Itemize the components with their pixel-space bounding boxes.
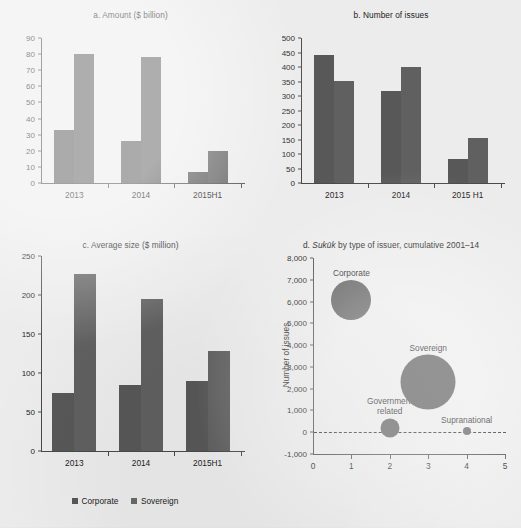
y-tickmark bbox=[310, 454, 314, 455]
bar-corporate-2015h1 bbox=[448, 159, 468, 183]
y-tickmark bbox=[298, 168, 302, 169]
y-ticklabel: 0 bbox=[303, 428, 307, 437]
y-ticklabel: 30 bbox=[26, 130, 35, 139]
panel-b-title: b. Number of issues bbox=[261, 10, 521, 20]
y-ticklabel: 0 bbox=[31, 179, 35, 188]
figure-legend: CorporateSovereign bbox=[72, 496, 178, 506]
bar-sovereign-2014 bbox=[141, 57, 161, 183]
y-tickmark bbox=[310, 410, 314, 411]
bar-sovereign-2015h1 bbox=[208, 151, 228, 183]
y-axis-line bbox=[41, 38, 42, 184]
y-tickmark bbox=[298, 96, 302, 97]
y-tickmark bbox=[38, 451, 42, 452]
x-tickmark bbox=[368, 184, 369, 188]
y-ticklabel: 450 bbox=[282, 48, 295, 57]
x-tickmark bbox=[108, 452, 109, 456]
y-tickmark bbox=[38, 38, 42, 39]
panel-b-number-of-issues: b. Number of issues 05010015020025030035… bbox=[261, 0, 521, 228]
y-tickmark bbox=[38, 54, 42, 55]
bar-corporate-2013 bbox=[52, 393, 74, 452]
legend-item-corporate[interactable]: Corporate bbox=[72, 496, 118, 506]
x-tickmark bbox=[351, 455, 352, 459]
bubble-sovereign bbox=[401, 355, 456, 410]
x-ticklabel: 2014 bbox=[132, 458, 150, 468]
zero-reference-line bbox=[314, 432, 506, 433]
x-ticklabel: 1 bbox=[349, 461, 354, 471]
x-tickmark bbox=[501, 184, 502, 188]
y-tickmark bbox=[310, 388, 314, 389]
y-ticklabel: -1,000 bbox=[284, 450, 307, 459]
y-tickmark bbox=[298, 154, 302, 155]
bubble-government-related bbox=[380, 418, 399, 437]
panel-d-title-italic-term: Sukūk bbox=[312, 240, 335, 250]
panel-a-title: a. Amount ($ billion) bbox=[0, 10, 261, 20]
y-ticklabel: 100 bbox=[22, 369, 35, 378]
y-ticklabel: 300 bbox=[282, 92, 295, 101]
y-ticklabel: 150 bbox=[282, 135, 295, 144]
y-ticklabel: 7,000 bbox=[287, 275, 307, 284]
x-ticklabel: 2013 bbox=[65, 458, 83, 468]
bubble-label-supranational: Supranational bbox=[441, 415, 492, 425]
bar-sovereign-2014 bbox=[141, 299, 163, 451]
y-tickmark bbox=[298, 139, 302, 140]
x-tickmark bbox=[174, 184, 175, 188]
y-ticklabel: 1,000 bbox=[287, 406, 307, 415]
y-ticklabel: 10 bbox=[26, 162, 35, 171]
y-tickmark bbox=[38, 102, 42, 103]
y-tickmark bbox=[298, 110, 302, 111]
y-tickmark bbox=[38, 334, 42, 335]
x-ticklabel: 2015 H1 bbox=[452, 190, 483, 200]
y-ticklabel: 350 bbox=[282, 77, 295, 86]
y-ticklabel: 8,000 bbox=[287, 254, 307, 263]
x-tickmark bbox=[108, 184, 109, 188]
bubble-supranational bbox=[463, 427, 471, 435]
x-ticklabel: 2015H1 bbox=[193, 190, 222, 200]
bar-corporate-2014 bbox=[121, 141, 141, 183]
y-tickmark bbox=[298, 52, 302, 53]
bar-corporate-2014 bbox=[119, 385, 141, 451]
y-tickmark bbox=[38, 70, 42, 71]
y-ticklabel: 200 bbox=[22, 291, 35, 300]
y-ticklabel: 500 bbox=[282, 34, 295, 43]
panel-d-title-suffix: by type of issuer, cumulative 2001–14 bbox=[336, 240, 479, 250]
panel-c-title: c. Average size ($ million) bbox=[0, 240, 261, 250]
y-axis-line bbox=[41, 256, 42, 452]
x-tickmark bbox=[434, 184, 435, 188]
x-ticklabel: 5 bbox=[503, 461, 508, 471]
x-tickmark bbox=[174, 452, 175, 456]
y-ticklabel: 50 bbox=[26, 98, 35, 107]
y-tickmark bbox=[38, 118, 42, 119]
panel-a-amount: a. Amount ($ billion) 010203040506070809… bbox=[0, 0, 261, 228]
bar-corporate-2015h1 bbox=[188, 172, 208, 183]
y-tickmark bbox=[38, 412, 42, 413]
bubble-label-corporate: Corporate bbox=[333, 268, 370, 278]
x-ticklabel: 2015H1 bbox=[193, 458, 222, 468]
y-tickmark bbox=[310, 345, 314, 346]
square-swatch-icon bbox=[131, 498, 137, 504]
legend-item-sovereign[interactable]: Sovereign bbox=[131, 496, 178, 506]
x-ticklabel: 2 bbox=[387, 461, 392, 471]
y-ticklabel: 100 bbox=[282, 150, 295, 159]
y-ticklabel: 400 bbox=[282, 63, 295, 72]
x-tickmark bbox=[241, 184, 242, 188]
y-tickmark bbox=[310, 366, 314, 367]
y-tickmark bbox=[38, 150, 42, 151]
y-ticklabel: 70 bbox=[26, 66, 35, 75]
square-swatch-icon bbox=[72, 498, 78, 504]
bar-corporate-2013 bbox=[314, 55, 334, 183]
y-axis-line bbox=[301, 38, 302, 184]
bar-corporate-2013 bbox=[54, 130, 74, 183]
panel-d-title: d. Sukūk by type of issuer, cumulative 2… bbox=[261, 240, 521, 250]
x-ticklabel: 2014 bbox=[392, 190, 410, 200]
y-ticklabel: 2,000 bbox=[287, 384, 307, 393]
y-tickmark bbox=[38, 86, 42, 87]
y-tickmark bbox=[310, 432, 314, 433]
panel-a-plot-area: 0102030405060708090201320142015H1 bbox=[41, 38, 241, 183]
x-ticklabel: 2014 bbox=[132, 190, 150, 200]
y-ticklabel: 40 bbox=[26, 114, 35, 123]
y-tickmark bbox=[310, 258, 314, 259]
bar-sovereign-2015h1 bbox=[468, 138, 488, 183]
y-tickmark bbox=[38, 256, 42, 257]
x-tickmark bbox=[241, 452, 242, 456]
panel-c-plot-area: 050100150200250201320142015H1 bbox=[41, 256, 241, 451]
